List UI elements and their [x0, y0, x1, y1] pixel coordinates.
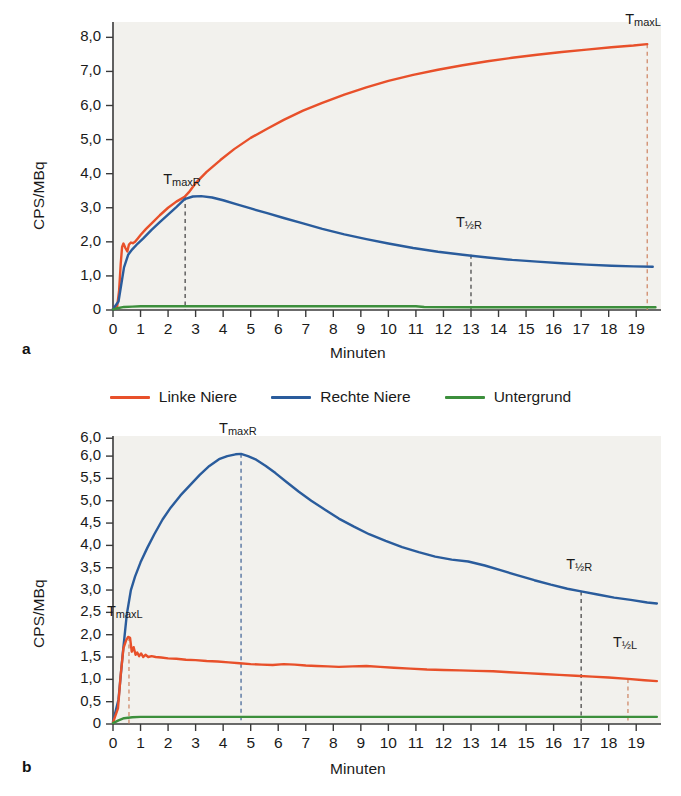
y-axis-tick-label: 3,0 — [55, 198, 101, 215]
annotation-label-t12r: T½R — [566, 556, 592, 572]
y-axis-tick-label: 7,0 — [55, 61, 101, 78]
legend-item-label: Rechte Niere — [320, 388, 410, 406]
chart-panel-b: 00,51,01,52,02,53,03,54,04,55,05,56,06,0… — [0, 420, 681, 796]
y-axis-tick-label: 8,0 — [55, 27, 101, 44]
annotation-subscript: maxL — [116, 608, 143, 620]
annotation-subscript: ½R — [465, 219, 482, 231]
plot-area-b: 00,51,01,52,02,53,03,54,04,55,05,56,06,0… — [113, 436, 661, 724]
annotation-symbol: T — [219, 420, 228, 436]
annotation-symbol: T — [566, 556, 575, 572]
panel-letter-b: b — [22, 758, 31, 776]
series-line-untergrund — [113, 717, 657, 723]
y-axis-tick-label: 5,0 — [55, 491, 101, 508]
figure-legend: Linke NiereRechte NiereUntergrund — [0, 380, 681, 414]
line-swatch-icon — [445, 396, 485, 399]
y-axis-title-b: CPS/MBq — [30, 579, 48, 648]
chart-panel-a: 01,02,03,04,05,06,07,08,0012345678910111… — [0, 0, 681, 372]
y-axis-tick-label: 6,0 — [55, 428, 101, 445]
annotation-label-tmaxr: TmaxR — [219, 420, 257, 436]
annotation-symbol: T — [613, 634, 622, 650]
y-axis-tick-label: 5,5 — [55, 468, 101, 485]
annotation-symbol: T — [107, 603, 116, 619]
y-axis-title-a: CPS/MBq — [30, 161, 48, 230]
y-axis-tick-label: 5,0 — [55, 130, 101, 147]
y-axis-tick-label: 3,0 — [55, 580, 101, 597]
annotation-label-tmaxl: TmaxL — [107, 603, 143, 619]
annotation-subscript: maxR — [228, 425, 257, 437]
line-swatch-icon — [271, 396, 311, 399]
x-axis-title-b: Minuten — [330, 760, 386, 778]
y-axis-tick-label: 2,0 — [55, 232, 101, 249]
y-axis-tick-label: 0 — [55, 300, 101, 317]
y-axis-tick-label: 4,0 — [55, 535, 101, 552]
figure-root: 01,02,03,04,05,06,07,08,0012345678910111… — [0, 0, 681, 796]
annotation-symbol: T — [625, 11, 634, 27]
y-axis-tick-label: 4,5 — [55, 513, 101, 530]
y-axis-tick-label: 1,0 — [55, 266, 101, 283]
series-line-rechte-niere — [113, 196, 653, 309]
y-axis-tick-label: 0,5 — [55, 692, 101, 709]
annotation-label-t12l: T½L — [613, 634, 637, 650]
legend-item-label: Linke Niere — [159, 388, 237, 406]
annotation-label-tmaxr: TmaxR — [163, 171, 201, 187]
series-line-untergrund — [113, 306, 655, 309]
y-axis-tick-label: 6,0 — [55, 96, 101, 113]
plot-area-a: 01,02,03,04,05,06,07,08,0012345678910111… — [113, 22, 661, 310]
annotation-symbol: T — [456, 214, 465, 230]
annotation-subscript: maxR — [172, 176, 201, 188]
annotation-label-t12r: T½R — [456, 214, 482, 230]
y-axis-tick-label: 2,0 — [55, 625, 101, 642]
y-axis-tick-label: 4,0 — [55, 164, 101, 181]
y-axis-tick-label: 1,0 — [55, 669, 101, 686]
annotation-subscript: maxL — [634, 16, 661, 28]
plot-svg — [113, 436, 681, 764]
annotation-symbol: T — [163, 171, 172, 187]
y-axis-tick-label: 6,0 — [55, 446, 101, 463]
annotation-subscript: ½R — [575, 561, 592, 573]
annotation-label-tmaxl: TmaxL — [625, 11, 661, 27]
annotation-subscript: ½L — [622, 639, 637, 651]
legend-item-untergrund: Untergrund — [445, 388, 572, 406]
series-line-rechte-niere — [113, 454, 657, 722]
legend-item-linke-niere: Linke Niere — [110, 388, 237, 406]
panel-letter-a: a — [22, 340, 31, 358]
y-axis-tick-label: 1,5 — [55, 647, 101, 664]
y-axis-tick-label: 0 — [55, 714, 101, 731]
x-axis-title-a: Minuten — [330, 344, 386, 362]
line-swatch-icon — [110, 396, 150, 399]
y-axis-tick-label: 3,5 — [55, 558, 101, 575]
series-line-linke-niere — [113, 637, 657, 723]
legend-item-rechte-niere: Rechte Niere — [271, 388, 410, 406]
y-axis-tick-label: 2,5 — [55, 602, 101, 619]
legend-item-label: Untergrund — [494, 388, 572, 406]
